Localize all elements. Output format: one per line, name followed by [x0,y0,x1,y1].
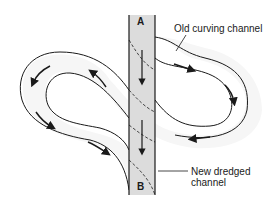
point-a-label: A [137,16,144,27]
point-b-label: B [137,181,144,192]
flow-arrow-icon [174,64,192,70]
new-dredged-channel [129,15,155,195]
old-channel-label: Old curving channel [174,23,262,34]
new-channel-label-line1: New dredged [191,166,250,177]
new-channel-label-line2: channel [191,177,226,188]
river-channel-diagram: A B Old curving channel New dredged chan… [0,0,277,205]
